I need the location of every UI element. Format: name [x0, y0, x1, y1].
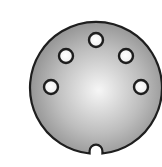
pin-hole-left: [44, 80, 58, 94]
pin-hole-upper-right: [119, 49, 133, 63]
pin-hole-upper-left: [59, 49, 73, 63]
pin-hole-top: [89, 33, 103, 47]
pin-hole-right: [134, 80, 148, 94]
din-connector-illustration: [0, 0, 162, 167]
